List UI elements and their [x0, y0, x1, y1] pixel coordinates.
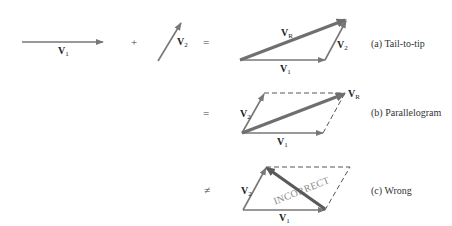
vector-addition-diagram: V1 + V2 = VR V2 V1 (a) Tail-to-tip = VR …	[0, 0, 452, 226]
panel-wrong: INCORRECT V2 V1 (c) Wrong	[241, 167, 412, 225]
v1-label: V1	[279, 212, 290, 225]
panel-tail-to-tip: VR V2 V1 (a) Tail-to-tip	[240, 20, 425, 76]
panel-parallelogram: VR V2 V1 (b) Parallelogram	[240, 88, 441, 149]
not-equal-sign: ≠	[204, 184, 210, 196]
svg-text:V1: V1	[58, 45, 69, 58]
equals-sign: =	[203, 36, 209, 48]
v2-label: V2	[241, 185, 252, 198]
v1-label: V1	[280, 63, 291, 76]
v1-label: V1	[277, 136, 288, 149]
input-v2-vector: V2	[158, 23, 188, 61]
v2-label: V2	[337, 39, 348, 52]
input-v1-vector: V1	[22, 42, 103, 58]
vr-label: VR	[281, 27, 293, 40]
plus-sign: +	[131, 36, 137, 48]
vr-label: VR	[348, 88, 360, 101]
equals-sign-b: =	[203, 107, 209, 119]
v2-label: V2	[240, 108, 251, 121]
caption-c: (c) Wrong	[371, 185, 412, 197]
caption-b: (b) Parallelogram	[371, 107, 441, 119]
svg-text:V2: V2	[177, 36, 188, 49]
caption-a: (a) Tail-to-tip	[371, 38, 425, 50]
